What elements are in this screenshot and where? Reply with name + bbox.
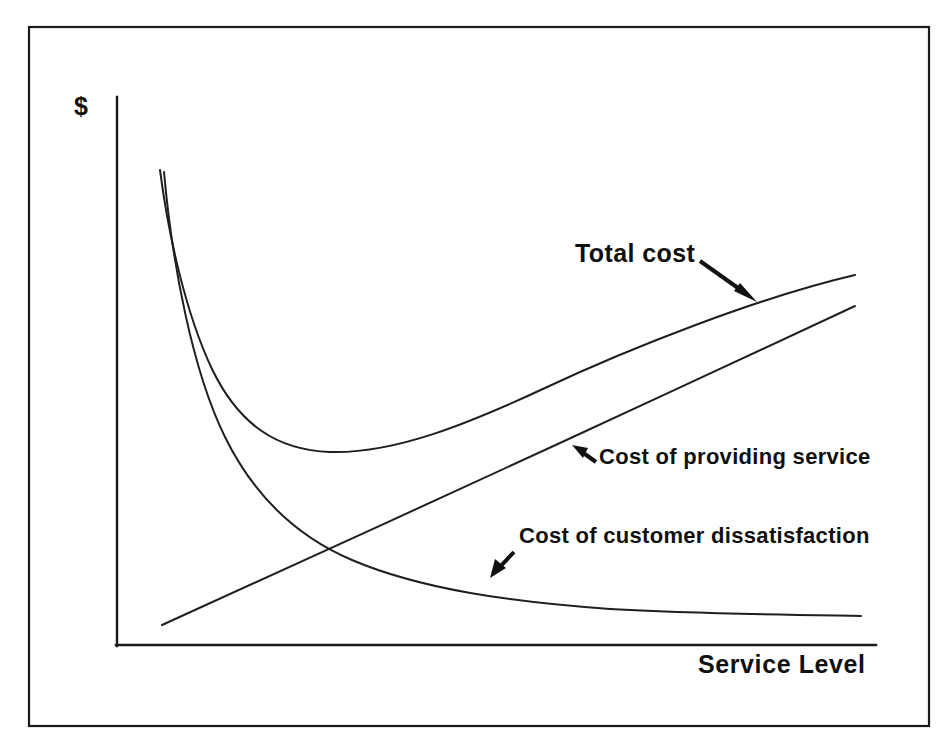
series-customer-dissatisfaction <box>164 172 861 616</box>
annotation-customer-dissatisfaction: Cost of customer dissatisfaction <box>519 523 870 549</box>
arrow-total-cost <box>700 261 757 302</box>
x-axis-label: Service Level <box>698 650 866 679</box>
annotation-total-cost: Total cost <box>575 239 695 268</box>
y-axis-label: $ <box>74 92 88 121</box>
chart-figure: $ Service Level Total cost Cost of provi… <box>0 0 952 739</box>
figure-border <box>29 27 929 726</box>
arrow-customer-dissatisfaction <box>490 552 514 578</box>
arrow-cost-of-providing-service <box>572 445 596 462</box>
annotation-cost-of-providing-service: Cost of providing service <box>599 444 871 470</box>
series-total-cost <box>160 170 855 452</box>
chart-canvas <box>0 0 952 739</box>
